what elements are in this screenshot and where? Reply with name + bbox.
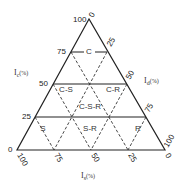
region-sr: S-R (83, 124, 97, 133)
bottom-tick-100: 100 (15, 152, 30, 169)
region-s: S (40, 124, 45, 133)
region-cr: C-R (106, 85, 120, 94)
region-r: R (135, 124, 141, 133)
region-cs: C-S (59, 85, 73, 94)
axis-label-is: Is(%) (81, 171, 95, 181)
bottom-tick-50: 50 (89, 152, 102, 165)
left-tick-25: 25 (22, 112, 31, 121)
left-tick-50: 50 (39, 79, 48, 88)
bottom-tick-75: 75 (52, 152, 65, 165)
right-tick-0: 0 (87, 10, 97, 19)
axis-label-ic: Ic(%) (14, 68, 28, 78)
right-tick-75: 75 (143, 101, 156, 114)
left-tick-75: 75 (57, 47, 66, 56)
right-tick-100: 100 (162, 132, 177, 149)
left-tick-0: 0 (8, 145, 13, 154)
region-c: C (86, 47, 92, 56)
right-tick-50: 50 (124, 68, 137, 81)
dashed-lines (35, 52, 146, 150)
bottom-tick-25: 25 (126, 152, 139, 165)
right-tick-25: 25 (105, 35, 118, 48)
left-tick-100: 100 (73, 15, 87, 24)
region-csr: C-S-R (79, 102, 101, 111)
bottom-tick-0: 0 (163, 152, 173, 161)
ternary-diagram: 100 75 50 25 0 0 25 50 75 100 100 75 50 … (0, 0, 187, 185)
axis-label-id: Id(%) (144, 76, 159, 86)
